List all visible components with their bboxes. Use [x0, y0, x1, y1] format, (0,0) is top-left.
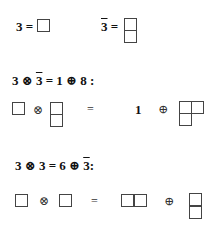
young-box-lhs-1 — [12, 102, 25, 115]
singlet-one: 1 — [135, 103, 142, 116]
heading-part: 3 ⊗ 3 = 6 ⊕ — [15, 158, 83, 173]
young-box-sextet-2 — [134, 194, 147, 207]
heading-part: : — [90, 158, 94, 173]
fundamental-label: 3 = — [16, 20, 33, 33]
product-2-heading: 3 ⊗ 3 = 6 ⊕ 3: — [15, 159, 94, 172]
equals-sign: = — [111, 19, 118, 34]
equals-symbol: = — [91, 195, 98, 207]
young-box-lhs-a — [15, 194, 28, 207]
young-box-fundamental — [37, 19, 50, 32]
three-bar-symbol: 3 — [101, 19, 108, 34]
young-box-antitriplet-top — [189, 193, 202, 206]
heading-part: 3 ⊗ — [12, 73, 36, 88]
young-box-sextet-1 — [121, 194, 134, 207]
heading-part: = 1 ⊕ 8 : — [42, 73, 94, 88]
oplus-symbol: ⊕ — [164, 195, 174, 207]
equals-sign: = — [26, 19, 33, 34]
equals-symbol: = — [87, 103, 94, 115]
product-1-heading: 3 ⊗ 3 = 1 ⊕ 8 : — [12, 74, 94, 87]
otimes-symbol: ⊗ — [39, 195, 49, 207]
young-box-octet-3 — [179, 113, 192, 126]
young-box-antitriplet-bottom — [189, 206, 202, 219]
young-box-antifund-bottom — [124, 30, 137, 43]
otimes-symbol: ⊗ — [33, 104, 43, 116]
young-box-octet-2 — [191, 101, 204, 114]
young-box-lhs-b — [59, 194, 72, 207]
young-box-lhs-2-bottom — [50, 114, 63, 127]
three-symbol: 3 — [16, 19, 23, 34]
antifundamental-label: 3 = — [101, 20, 118, 33]
oplus-symbol: ⊕ — [158, 103, 168, 115]
